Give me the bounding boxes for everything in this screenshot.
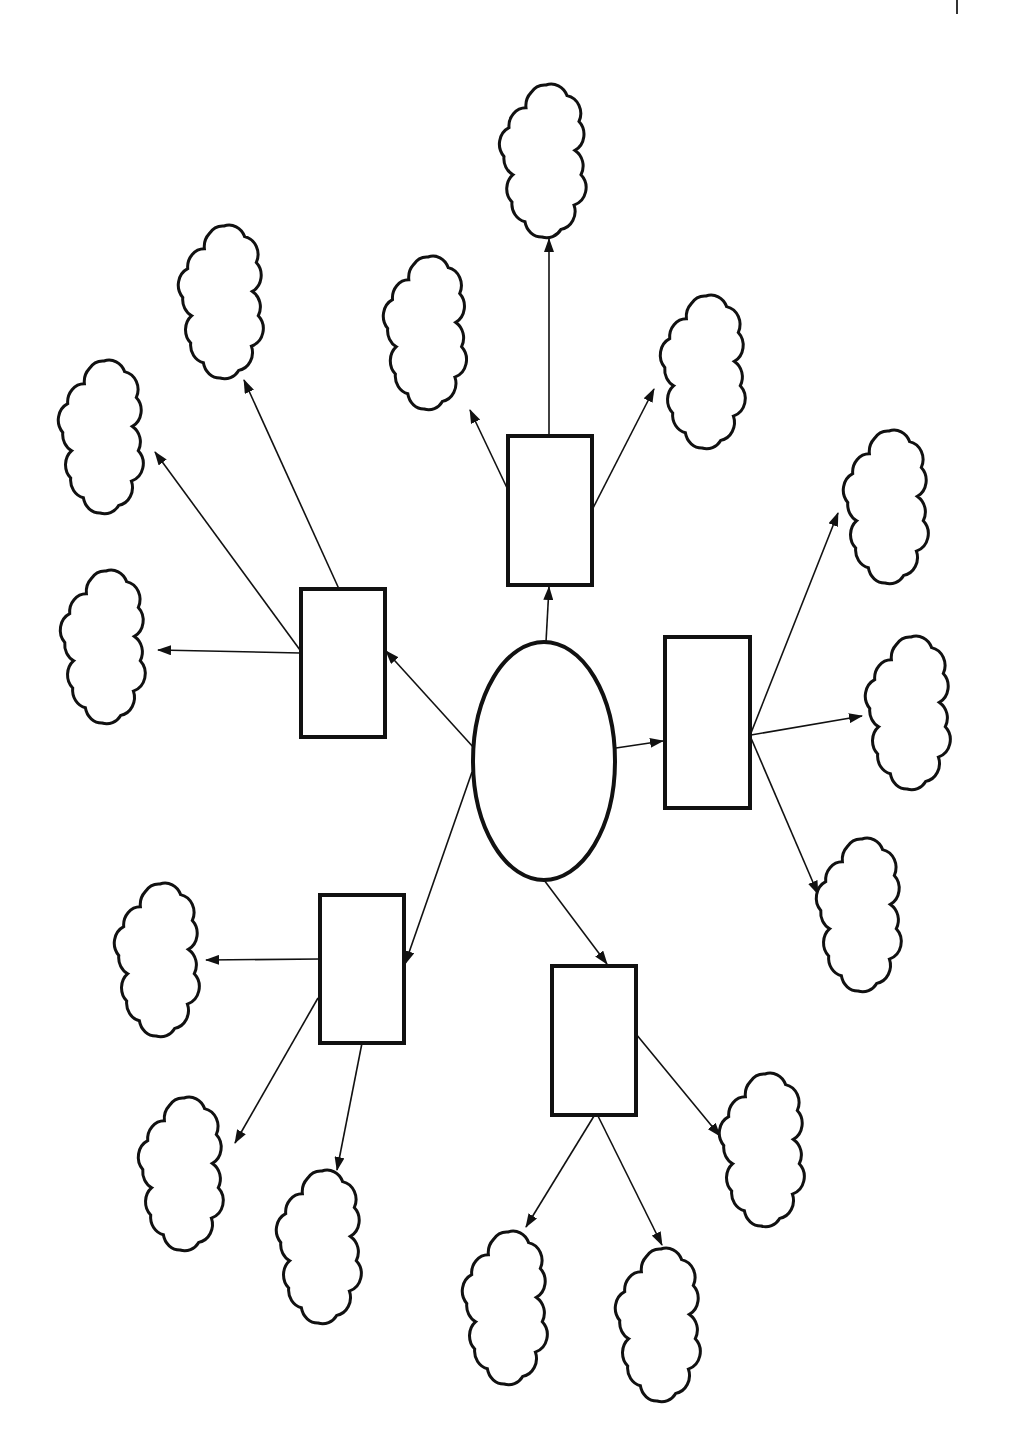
arrow-b-left-to-c5: [155, 452, 300, 650]
cloud-bubble-c2[interactable]: [383, 256, 466, 410]
branch-box-b-left[interactable]: [301, 589, 385, 737]
branch-box-b-top[interactable]: [508, 436, 592, 585]
cloud-bubble-c15[interactable]: [615, 1248, 700, 1402]
arrow-center-to-b-right: [616, 741, 663, 748]
arrow-b-bottom-to-c14: [526, 1116, 594, 1227]
arrow-b-bottom-to-c13: [636, 1034, 720, 1136]
arrow-b-bottom-left-to-c12: [337, 1043, 362, 1170]
arrow-b-left-to-c4: [244, 380, 339, 589]
cloud-bubble-c9[interactable]: [816, 838, 901, 992]
cloud-bubble-c1[interactable]: [499, 84, 586, 238]
branch-box-b-bottom-left[interactable]: [320, 895, 404, 1043]
arrow-b-bottom-to-c15: [598, 1116, 662, 1245]
cloud-bubble-c10[interactable]: [114, 883, 199, 1037]
arrow-b-bottom-left-to-c11: [235, 998, 318, 1143]
cloud-bubble-c5[interactable]: [58, 360, 143, 514]
arrow-b-right-to-c7: [751, 513, 838, 733]
branch-box-b-bottom[interactable]: [552, 966, 636, 1115]
cloud-bubble-c7[interactable]: [843, 430, 928, 584]
arrow-b-bottom-left-to-c10: [206, 959, 320, 960]
cloud-bubble-c11[interactable]: [138, 1097, 223, 1251]
arrow-b-right-to-c9: [751, 738, 818, 894]
branch-box-b-right[interactable]: [665, 637, 750, 808]
arrow-center-to-b-bottom: [544, 880, 607, 964]
cloud-bubble-c4[interactable]: [178, 225, 263, 379]
cloud-bubble-c3[interactable]: [660, 295, 745, 449]
arrow-b-right-to-c8: [751, 716, 862, 735]
cloud-bubble-c14[interactable]: [462, 1231, 547, 1385]
central-node: [473, 642, 615, 880]
cloud-bubble-c6[interactable]: [60, 570, 145, 724]
arrow-b-left-to-c6: [158, 650, 300, 653]
arrow-b-top-to-c2: [470, 410, 508, 490]
cloud-bubble-c12[interactable]: [276, 1170, 361, 1324]
arrow-center-to-b-top: [546, 587, 549, 642]
arrow-center-to-b-left: [386, 651, 474, 748]
cloud-bubble-c8[interactable]: [865, 636, 950, 790]
arrow-center-to-b-bottom-left: [405, 772, 472, 964]
spider-map-diagram: [0, 0, 1018, 1454]
arrow-b-top-to-c3: [592, 389, 654, 510]
cloud-bubble-c13[interactable]: [719, 1073, 804, 1227]
central-ellipse[interactable]: [473, 642, 615, 880]
